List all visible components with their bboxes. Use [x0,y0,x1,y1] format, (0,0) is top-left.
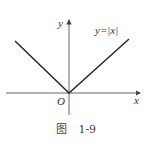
origin-label: O [57,95,65,107]
y-axis-label: y [57,17,63,29]
function-label: y=|x| [94,24,118,36]
abs-x-curve [15,39,129,93]
x-axis-label: x [133,94,139,106]
figure-caption: 图 1-9 [0,120,152,136]
caption-number: 1-9 [78,123,96,136]
caption-prefix: 图 [56,123,67,136]
